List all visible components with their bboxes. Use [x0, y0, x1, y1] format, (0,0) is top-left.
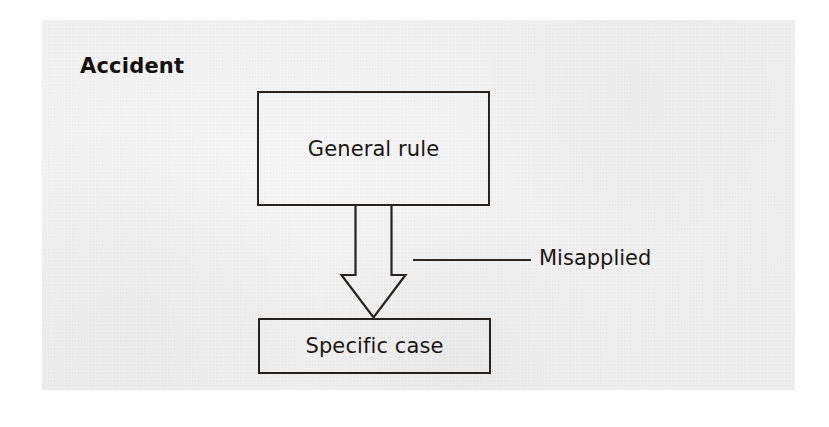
- node-specific-case: Specific case: [258, 318, 491, 374]
- annotation-leader-line: [413, 259, 531, 261]
- figure-title: Accident: [80, 54, 184, 78]
- figure-canvas: Accident General rule Misapplied Specifi…: [0, 0, 829, 427]
- annotation-misapplied-label: Misapplied: [539, 246, 651, 270]
- node-general-rule: General rule: [257, 91, 490, 206]
- block-arrow-down-icon: [330, 198, 420, 326]
- node-general-rule-label: General rule: [308, 137, 439, 161]
- node-specific-case-label: Specific case: [306, 334, 444, 358]
